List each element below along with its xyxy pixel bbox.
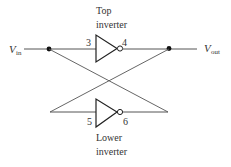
top-inverter-caption-1: Top	[96, 5, 111, 16]
top-inverter-caption-2: inverter	[96, 19, 128, 30]
top-inverter-output-pin: 4	[122, 37, 127, 48]
lower-inverter-input-pin: 5	[87, 116, 92, 127]
circuit-diagram: Top inverter 3 4 5 6 Lower inverter V in…	[0, 0, 231, 167]
top-inverter-input-pin: 3	[86, 37, 91, 48]
lower-inverter-bubble-icon	[117, 109, 122, 114]
cross-wire-vin-to-lower-out	[49, 49, 168, 112]
lower-inverter-caption-1: Lower	[96, 132, 123, 143]
vout-label-sub: out	[211, 48, 220, 56]
cross-wire-vout-to-lower-in	[50, 49, 169, 112]
lower-inverter-output-pin: 6	[123, 116, 128, 127]
vin-label-sub: in	[16, 49, 22, 57]
lower-inverter-triangle-icon	[96, 99, 117, 127]
lower-inverter-caption-2: inverter	[96, 146, 128, 157]
top-inverter-triangle-icon	[96, 35, 117, 62]
